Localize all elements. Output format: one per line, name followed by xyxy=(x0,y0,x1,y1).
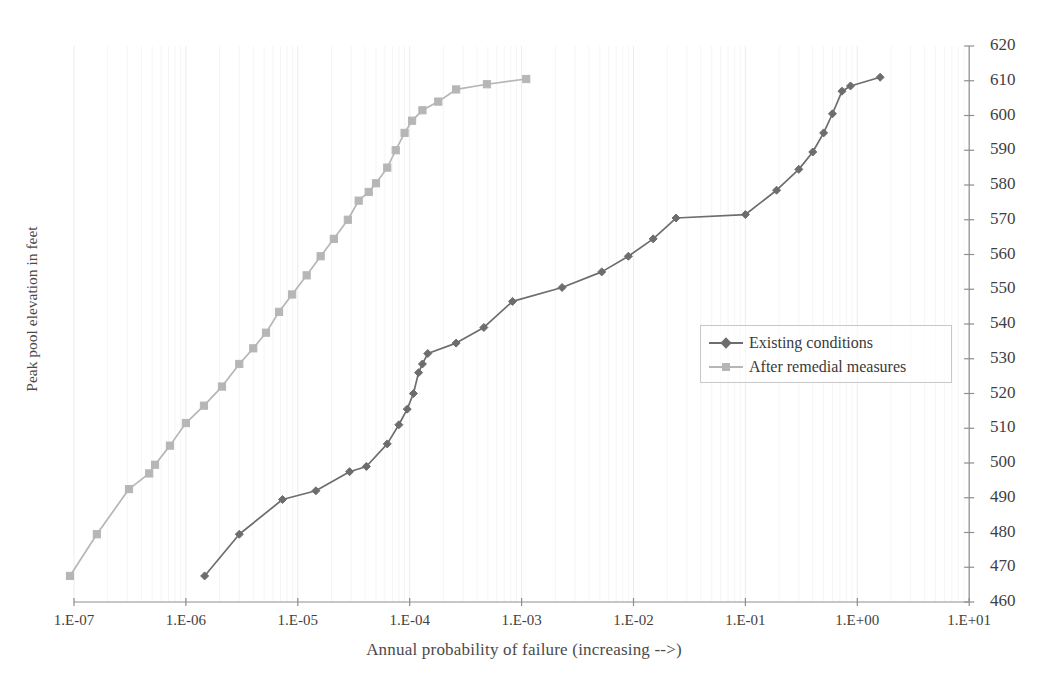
y-tick-label: 520 xyxy=(990,383,1016,403)
y-tick-label: 600 xyxy=(990,105,1016,125)
legend-item-existing-conditions: Existing conditions xyxy=(709,330,873,354)
y-tick-label: 580 xyxy=(990,174,1016,194)
x-tick-label: 1.E-04 xyxy=(365,612,455,629)
y-tick-label: 550 xyxy=(990,278,1016,298)
y-tick-label: 470 xyxy=(990,556,1016,576)
x-tick-label: 1.E-06 xyxy=(141,612,231,629)
legend-item-after-remedial-measures: After remedial measures xyxy=(709,354,906,378)
y-tick-label: 500 xyxy=(990,452,1016,472)
x-tick-label: 1.E-05 xyxy=(253,612,343,629)
legend-label-existing-conditions: Existing conditions xyxy=(749,334,873,351)
y-tick-label: 530 xyxy=(990,348,1016,368)
y-tick-label: 620 xyxy=(990,35,1016,55)
y-tick-label: 460 xyxy=(990,591,1016,611)
legend-swatch-existing-conditions xyxy=(709,337,743,349)
x-tick-label: 1.E-03 xyxy=(477,612,567,629)
y-tick-label: 610 xyxy=(990,70,1016,90)
y-tick-label: 510 xyxy=(990,417,1016,437)
x-tick-label: 1.E-02 xyxy=(589,612,679,629)
y-axis-title: Peak pool elevation in feet xyxy=(23,159,41,459)
y-tick-label: 590 xyxy=(990,139,1016,159)
gridlines xyxy=(74,46,969,602)
y-tick-label: 570 xyxy=(990,209,1016,229)
x-tick-label: 1.E+01 xyxy=(924,612,1014,629)
x-tick-label: 1.E+00 xyxy=(812,612,902,629)
x-tick-label: 1.E-01 xyxy=(700,612,790,629)
chart-legend: Existing conditions After remedial measu… xyxy=(700,325,952,383)
y-tick-label: 490 xyxy=(990,487,1016,507)
x-tick-label: 1.E-07 xyxy=(29,612,119,629)
legend-label-after-remedial-measures: After remedial measures xyxy=(749,358,906,375)
y-tick-label: 560 xyxy=(990,244,1016,264)
chart-figure: 1.E-071.E-061.E-051.E-041.E-031.E-021.E-… xyxy=(0,0,1048,698)
legend-swatch-after-remedial-measures xyxy=(709,361,743,373)
y-tick-label: 540 xyxy=(990,313,1016,333)
y-tick-label: 480 xyxy=(990,522,1016,542)
x-axis-title: Annual probability of failure (increasin… xyxy=(0,640,1048,660)
